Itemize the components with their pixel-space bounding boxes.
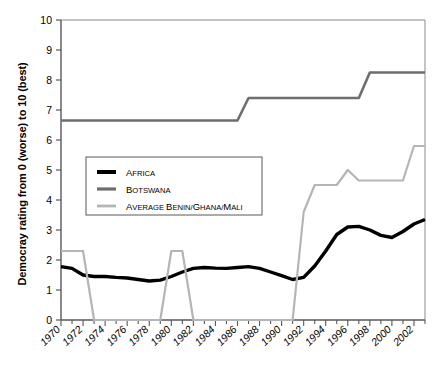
y-tick-label: 7 [46,104,52,116]
x-tick-label: 1986 [214,323,239,348]
chart-container: Democray rating from 0 (worse) to 10 (be… [0,0,442,379]
y-tick-label: 10 [40,14,52,26]
y-tick-label: 2 [46,254,52,266]
x-tick-label: 1984 [192,323,217,348]
x-tick-label: 1972 [59,323,84,348]
line-chart: 1098765432101970197219741976197819801982… [0,0,442,379]
series-line [61,73,425,121]
y-tick-label: 3 [46,224,52,236]
x-tick-label: 1992 [280,323,305,348]
x-tick-label: 1970 [37,323,62,348]
legend-label: BOTSWANA [126,184,171,195]
y-tick-label: 5 [46,164,52,176]
x-tick-label: 1988 [236,323,261,348]
x-tick-label: 1994 [302,323,327,348]
x-tick-label: 1998 [346,323,371,348]
y-tick-label: 4 [46,194,52,206]
x-tick-label: 2000 [368,323,394,349]
x-tick-label: 2002 [390,323,416,349]
x-tick-label: 1976 [104,323,129,348]
legend-label: AFRICA [126,167,156,178]
x-tick-label: 1974 [82,323,107,348]
y-tick-label: 8 [46,74,52,86]
y-tick-label: 0 [46,314,52,326]
y-tick-label: 1 [46,284,52,296]
y-axis-label: Democray rating from 0 (worse) to 10 (be… [16,14,28,334]
x-tick-label: 1978 [126,323,151,348]
x-tick-label: 1980 [148,323,173,348]
y-tick-label: 9 [46,44,52,56]
legend-label: AVERAGE BENIN/GHANA/MALI [126,201,243,212]
x-tick-label: 1990 [258,323,283,348]
x-tick-label: 1982 [170,323,195,348]
series-line [61,220,425,282]
x-tick-label: 1996 [324,323,349,348]
y-tick-label: 6 [46,134,52,146]
